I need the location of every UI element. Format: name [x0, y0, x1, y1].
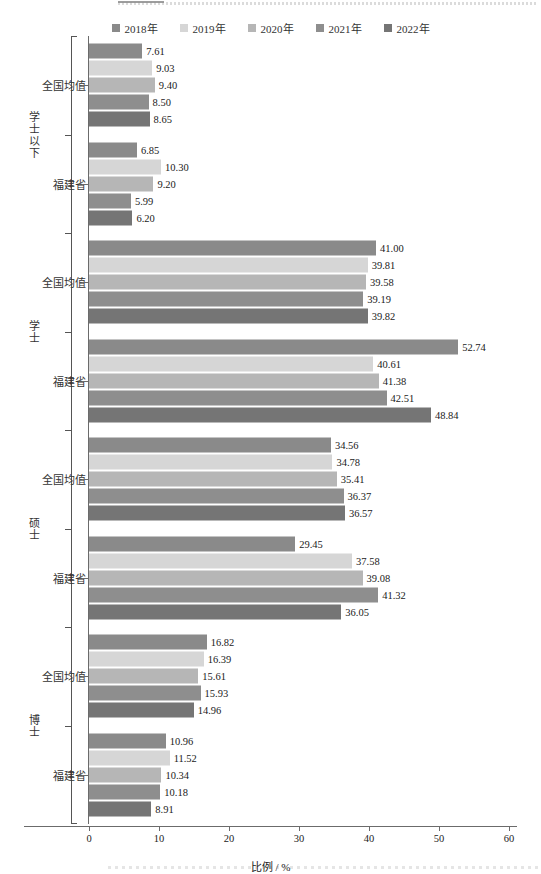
bar-value-label: 41.38	[383, 375, 407, 386]
bar-row: 36.05	[89, 603, 509, 620]
x-tick-mark	[159, 826, 160, 831]
bar[interactable]	[89, 553, 352, 568]
legend-label: 2021年	[329, 20, 362, 36]
bar[interactable]	[89, 275, 366, 290]
bar-subgroup: 全国均值7.619.039.408.508.65	[24, 36, 517, 135]
bar[interactable]	[89, 536, 295, 551]
bar-row: 48.84	[89, 406, 509, 423]
legend-swatch-icon	[316, 24, 324, 32]
bar[interactable]	[89, 356, 373, 371]
bar-value-label: 39.81	[372, 260, 396, 271]
bar-value-label: 52.74	[462, 341, 486, 352]
subcategory-tick	[82, 381, 88, 382]
bar-row: 10.96	[89, 732, 509, 749]
bar-row: 15.61	[89, 668, 509, 685]
bar[interactable]	[89, 669, 198, 684]
bar-row: 39.81	[89, 257, 509, 274]
legend-item[interactable]: 2021年	[316, 20, 362, 36]
bar[interactable]	[89, 176, 153, 191]
bar[interactable]	[89, 339, 458, 354]
bar-row: 5.99	[89, 192, 509, 209]
bar-value-label: 40.61	[377, 358, 401, 369]
bar-group: 硕士全国均值34.5634.7835.4136.3736.57福建省29.453…	[24, 430, 517, 627]
bar[interactable]	[89, 78, 155, 93]
bar[interactable]	[89, 570, 363, 585]
bar[interactable]	[89, 292, 363, 307]
bar-value-label: 10.34	[165, 769, 189, 780]
bar-value-label: 8.65	[154, 114, 172, 125]
bar-stack: 52.7440.6141.3842.5148.84	[89, 338, 509, 423]
bar-row: 37.58	[89, 552, 509, 569]
bar-row: 8.65	[89, 111, 509, 128]
bar-value-label: 16.82	[211, 637, 235, 648]
bar-row: 29.45	[89, 535, 509, 552]
x-tick-label: 50	[434, 833, 445, 844]
legend-item[interactable]: 2018年	[112, 20, 158, 36]
bar[interactable]	[89, 210, 132, 225]
bar-stack: 29.4537.5839.0841.3236.05	[89, 535, 509, 620]
x-tick-label: 30	[294, 833, 305, 844]
bar-value-label: 15.61	[202, 671, 226, 682]
bar[interactable]	[89, 455, 332, 470]
bar[interactable]	[89, 193, 131, 208]
bar[interactable]	[89, 373, 379, 388]
legend-item[interactable]: 2020年	[248, 20, 294, 36]
bar[interactable]	[89, 112, 150, 127]
bar[interactable]	[89, 241, 376, 256]
bar[interactable]	[89, 95, 149, 110]
legend-item[interactable]: 2022年	[384, 20, 430, 36]
bar[interactable]	[89, 489, 344, 504]
bar[interactable]	[89, 784, 160, 799]
bar[interactable]	[89, 703, 194, 718]
bar-row: 8.50	[89, 94, 509, 111]
x-tick-label: 40	[364, 833, 375, 844]
bar-value-label: 36.05	[345, 606, 369, 617]
bar[interactable]	[89, 506, 345, 521]
bar[interactable]	[89, 635, 207, 650]
bar[interactable]	[89, 767, 161, 782]
bar-row: 42.51	[89, 389, 509, 406]
x-tick-mark	[369, 826, 370, 831]
subcategory-label: 全国均值	[34, 274, 86, 290]
x-tick-mark	[229, 826, 230, 831]
bar[interactable]	[89, 587, 378, 602]
bar[interactable]	[89, 142, 137, 157]
bar[interactable]	[89, 159, 161, 174]
bar[interactable]	[89, 472, 337, 487]
bar-row: 7.61	[89, 43, 509, 60]
x-tick-label: 0	[86, 833, 91, 844]
bar-row: 11.52	[89, 749, 509, 766]
bar[interactable]	[89, 604, 341, 619]
bar[interactable]	[89, 44, 142, 59]
bar-row: 9.40	[89, 77, 509, 94]
legend-label: 2020年	[261, 20, 294, 36]
bar-stack: 16.8216.3915.6115.9314.96	[89, 634, 509, 719]
bar-value-label: 39.82	[372, 311, 396, 322]
bar[interactable]	[89, 438, 331, 453]
x-tick-mark	[439, 826, 440, 831]
bar[interactable]	[89, 309, 368, 324]
bar-row: 41.32	[89, 586, 509, 603]
bar[interactable]	[89, 258, 368, 273]
bar-row: 6.20	[89, 209, 509, 226]
bar[interactable]	[89, 652, 204, 667]
bar-row: 39.58	[89, 274, 509, 291]
bar-stack: 41.0039.8139.5839.1939.82	[89, 240, 509, 325]
bar-value-label: 10.18	[164, 786, 188, 797]
bar[interactable]	[89, 733, 166, 748]
legend-swatch-icon	[384, 24, 392, 32]
legend-item[interactable]: 2019年	[180, 20, 226, 36]
bar-group: 学士全国均值41.0039.8139.5839.1939.82福建省52.744…	[24, 233, 517, 430]
bar-stack: 34.5634.7835.4136.3736.57	[89, 437, 509, 522]
bar[interactable]	[89, 750, 170, 765]
chart-legend: 2018年2019年2020年2021年2022年	[0, 20, 541, 36]
bar[interactable]	[89, 407, 431, 422]
bar[interactable]	[89, 390, 387, 405]
bar-row: 10.34	[89, 766, 509, 783]
bar-row: 9.20	[89, 175, 509, 192]
legend-swatch-icon	[248, 24, 256, 32]
bar[interactable]	[89, 61, 152, 76]
bar[interactable]	[89, 686, 201, 701]
bar[interactable]	[89, 801, 151, 816]
x-tick-mark	[89, 826, 90, 831]
